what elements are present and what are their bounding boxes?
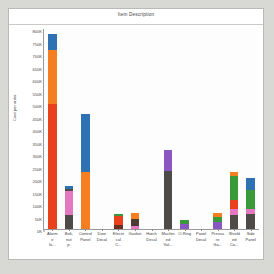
y-tick-label: 250K [32,166,42,171]
bar-segment[interactable] [164,150,173,171]
bar-segment[interactable] [246,214,255,230]
x-tick-label: Bolt, nut p. [61,231,78,248]
x-tick-label: Panel Decal [193,231,210,242]
chart-title: Item Description [9,12,263,17]
bar-segment[interactable] [213,222,222,229]
x-tick-label: Alarm e fa... [44,231,61,248]
x-tick-label: Hatch Decal [143,231,160,242]
y-tick-label: 0K [37,229,42,234]
y-tick-label: 100K [32,204,42,209]
bar-5[interactable] [131,213,140,230]
bar-segment[interactable] [246,178,255,191]
bar-10[interactable] [213,213,222,229]
chart-title-bar: Item Description [9,9,263,25]
y-tick-label: 400K [32,129,42,134]
y-tick-label: 650K [32,66,42,71]
x-tick-label: Electri cal C... [110,231,127,248]
bar-1[interactable] [65,186,74,229]
bar-12[interactable] [246,178,255,229]
y-tick-label: 350K [32,141,42,146]
bar-segment[interactable] [65,191,74,216]
bar-segment[interactable] [164,171,173,230]
x-tick-label: Control Panel [77,231,94,242]
y-tick-label: 200K [32,179,42,184]
y-tick-label: 550K [32,91,42,96]
y-tick-label: 50K [35,216,42,221]
bar-segment[interactable] [81,114,90,173]
bar-11[interactable] [230,172,239,229]
bar-segment[interactable] [230,176,239,201]
x-tick-label: Side Panel [242,231,259,242]
bar-segment[interactable] [48,34,57,50]
y-axis-label: Cost per order [12,94,17,121]
y-tick-label: 700K [32,54,42,59]
y-tick-label: 600K [32,79,42,84]
x-tick-label: O-Ring [176,231,193,237]
bar-7[interactable] [164,150,173,230]
y-tick-label: 800K [32,29,42,34]
bar-segment[interactable] [48,50,57,104]
bar-segment[interactable] [230,200,239,209]
x-axis-labels: Alarm e fa...Bolt, nut p.Control PanelDo… [44,231,259,257]
x-tick-label: Door Decal [94,231,111,242]
y-tick-label: 500K [32,104,42,109]
y-tick-label: 750K [32,41,42,46]
bar-segment[interactable] [114,216,123,225]
bar-0[interactable] [48,34,57,229]
bar-segment[interactable] [81,172,90,229]
bar-segment[interactable] [48,104,57,229]
bar-segment[interactable] [230,215,239,229]
x-tick-label: Shield ed Ca... [226,231,243,248]
chart-window: Item Description Cost per order 0K50K100… [8,8,264,260]
x-tick-label: Pressu re Ga... [209,231,226,248]
y-tick-label: 300K [32,154,42,159]
bar-8[interactable] [180,220,189,230]
y-tick-label: 150K [32,191,42,196]
bar-2[interactable] [81,114,90,230]
bar-4[interactable] [114,214,123,229]
bar-segment[interactable] [65,215,74,229]
bar-segment[interactable] [246,190,255,208]
plot-area-wrapper: Cost per order 0K50K100K150K200K250K300K… [9,25,263,259]
x-tick-label: Machin ed Val... [160,231,177,248]
y-axis-ticks: 0K50K100K150K200K250K300K350K400K450K500… [21,31,43,227]
y-tick-label: 450K [32,116,42,121]
plot-area [44,29,259,229]
x-tick-label: Gasket [127,231,144,237]
